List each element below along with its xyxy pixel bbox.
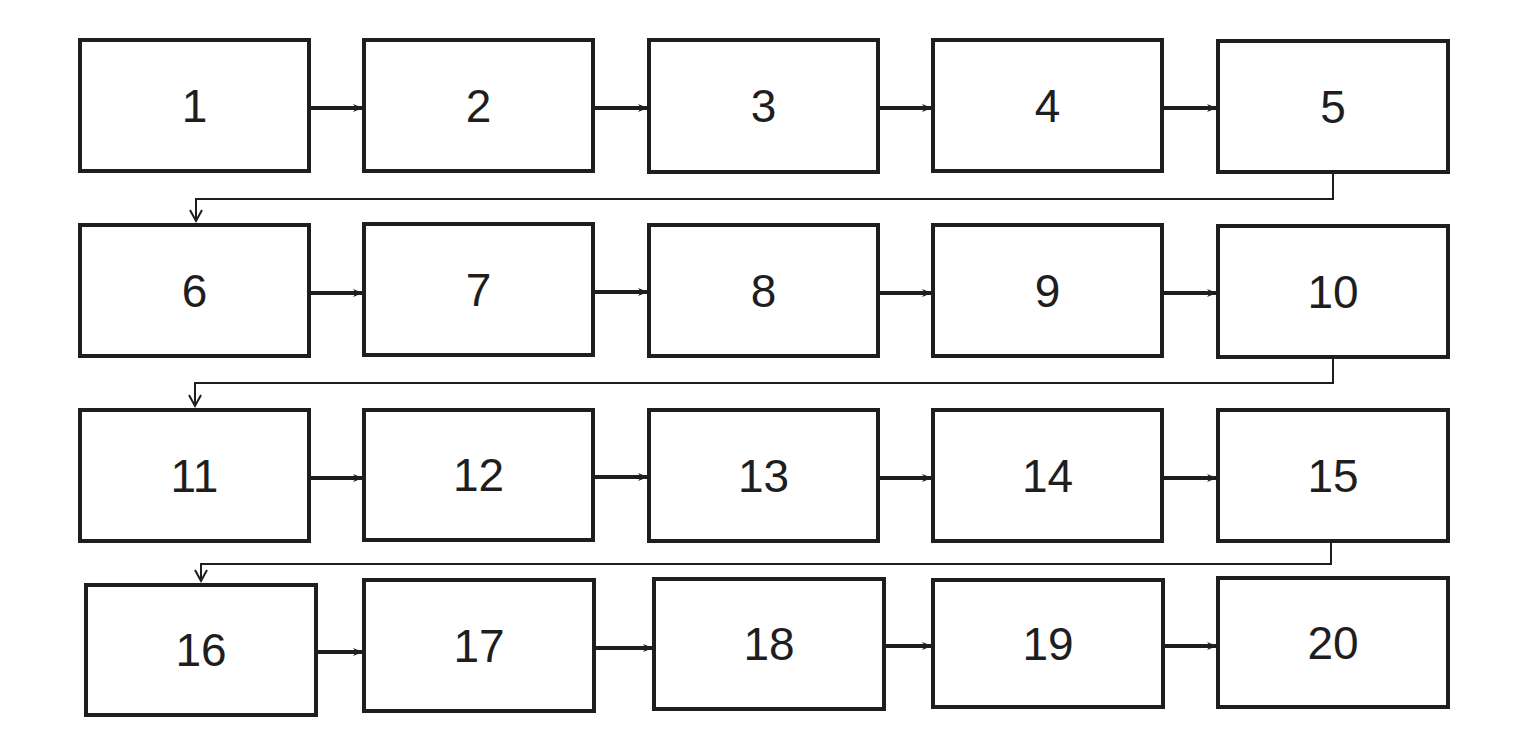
step-number-label: 13 — [738, 453, 789, 499]
wrap-connector — [196, 174, 1333, 221]
process-step-box: 15 — [1216, 408, 1450, 543]
step-number-label: 8 — [751, 268, 777, 314]
wrap-connector — [195, 359, 1333, 406]
step-number-label: 5 — [1320, 84, 1346, 130]
process-step-box: 1 — [78, 38, 311, 173]
process-step-box: 18 — [652, 577, 886, 711]
process-step-box: 3 — [647, 38, 880, 174]
process-step-box: 8 — [647, 223, 880, 358]
step-number-label: 19 — [1022, 621, 1073, 667]
process-step-box: 5 — [1216, 39, 1450, 174]
step-number-label: 2 — [466, 83, 492, 129]
process-step-box: 14 — [931, 408, 1164, 543]
step-number-label: 6 — [182, 268, 208, 314]
step-number-label: 15 — [1307, 453, 1358, 499]
process-step-box: 16 — [84, 583, 318, 717]
process-step-box: 20 — [1216, 576, 1450, 709]
step-number-label: 4 — [1035, 83, 1061, 129]
process-step-box: 12 — [362, 408, 595, 542]
step-number-label: 17 — [453, 623, 504, 669]
process-step-box: 19 — [931, 578, 1165, 709]
step-number-label: 7 — [466, 267, 492, 313]
step-number-label: 16 — [175, 627, 226, 673]
step-number-label: 9 — [1035, 268, 1061, 314]
process-step-box: 10 — [1216, 224, 1450, 359]
wrap-connector — [201, 543, 1331, 581]
flowchart-canvas: 1234567891011121314151617181920 — [0, 0, 1519, 751]
step-number-label: 1 — [182, 83, 208, 129]
process-step-box: 11 — [78, 408, 311, 543]
process-step-box: 9 — [931, 223, 1164, 358]
process-step-box: 2 — [362, 38, 595, 173]
process-step-box: 6 — [78, 223, 311, 358]
step-number-label: 14 — [1022, 453, 1073, 499]
step-number-label: 10 — [1307, 269, 1358, 315]
process-step-box: 13 — [647, 408, 880, 543]
step-number-label: 11 — [171, 453, 219, 499]
step-number-label: 20 — [1307, 620, 1358, 666]
step-number-label: 12 — [453, 452, 504, 498]
step-number-label: 18 — [743, 621, 794, 667]
step-number-label: 3 — [751, 83, 777, 129]
process-step-box: 7 — [362, 222, 595, 357]
process-step-box: 4 — [931, 38, 1164, 173]
process-step-box: 17 — [362, 578, 596, 713]
